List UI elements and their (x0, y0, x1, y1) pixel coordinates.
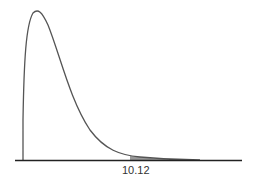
density-curve (23, 11, 200, 160)
density-chart (0, 0, 256, 186)
critical-value-label: 10.12 (122, 164, 150, 176)
